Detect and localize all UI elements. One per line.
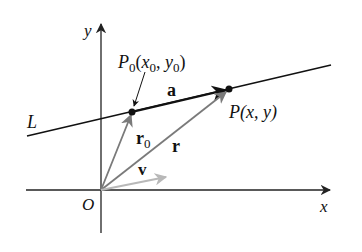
r0-subscript: 0 <box>144 136 151 151</box>
point-p <box>226 86 233 93</box>
vector-r0-label: r0 <box>136 128 151 151</box>
y-axis-label: y <box>82 21 92 40</box>
p-coords: (x, y) <box>240 102 277 123</box>
p0-x: x <box>141 52 150 72</box>
line-L-label: L <box>26 112 37 132</box>
p0-name: P <box>117 52 129 72</box>
r0-name: r <box>136 128 144 148</box>
p0-y: y <box>163 52 173 72</box>
point-p-label: P(x, y) <box>228 102 277 123</box>
p0-close-paren: ) <box>180 52 186 73</box>
vector-v-label: v <box>138 160 147 179</box>
origin-label: O <box>82 195 94 214</box>
p0-pointer-arrow <box>134 72 145 106</box>
vector-r-label: r <box>172 136 180 156</box>
p0-comma: , <box>156 52 165 72</box>
p-name: P <box>228 102 240 122</box>
vector-equation-of-line-diagram: y x O L P0(x0, y0) P(x, y) a r0 r v <box>0 0 362 252</box>
point-p0-label: P0(x0, y0) <box>117 52 186 75</box>
vector-v <box>101 177 166 190</box>
vector-a <box>132 90 226 112</box>
x-axis-label: x <box>319 197 328 216</box>
vector-a-label: a <box>167 80 176 100</box>
point-p0 <box>129 109 136 116</box>
